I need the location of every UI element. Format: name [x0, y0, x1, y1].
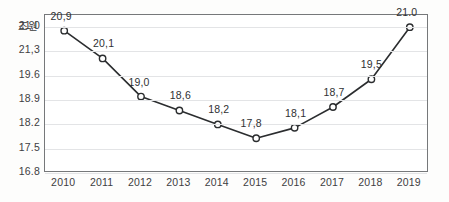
x-axis-tick-label: 2010: [43, 176, 83, 188]
data-point-label: 20,1: [93, 37, 114, 49]
data-point-marker: [138, 93, 144, 99]
gridline: [45, 51, 427, 52]
data-point-label: 17,8: [241, 117, 262, 129]
gridline: [45, 100, 427, 101]
data-point-label: 19,5: [361, 58, 382, 70]
x-axis-tick-label: 2011: [82, 176, 122, 188]
y-axis-tick-label: 17.5: [4, 142, 40, 153]
data-point-marker: [61, 27, 67, 33]
x-axis-tick-label: 2017: [312, 176, 352, 188]
data-point-label: 20,9: [51, 10, 72, 22]
gridline: [45, 149, 427, 150]
y-axis-tick-label: 18.2: [4, 117, 40, 128]
chart-screenshot: 조원 21,021,319.618.918.217.516.8 20,920,1…: [0, 0, 449, 202]
data-point-label: 18,6: [170, 89, 191, 101]
x-axis-tick-label: 2015: [235, 176, 275, 188]
data-point-marker: [330, 104, 336, 110]
data-point-marker: [176, 107, 182, 113]
x-axis-tick-label: 2018: [350, 176, 390, 188]
x-axis-tick-labels: 2010201120122013201420152016201720182019: [44, 176, 428, 194]
data-point-marker: [368, 76, 374, 82]
data-point-label: 21.0: [396, 6, 417, 18]
x-axis-tick-label: 2013: [158, 176, 198, 188]
y-axis-tick-label: 21,3: [4, 44, 40, 55]
y-axis-tick-label: 16.8: [4, 166, 40, 177]
data-point-marker: [253, 135, 259, 141]
y-axis-tick-label: 21,0: [4, 20, 40, 31]
y-axis-tick-label: 18.9: [4, 93, 40, 104]
data-point-label: 18,1: [285, 107, 306, 119]
data-point-label: 18,2: [208, 103, 229, 115]
data-point-marker: [291, 125, 297, 131]
data-point-marker: [99, 55, 105, 61]
y-axis-tick-labels: 21,021,319.618.918.217.516.8: [0, 14, 40, 172]
x-axis-tick-label: 2016: [274, 176, 314, 188]
y-axis-tick-label: 19.6: [4, 69, 40, 80]
data-point-label: 18,7: [323, 86, 344, 98]
x-axis-tick-label: 2014: [197, 176, 237, 188]
x-axis-tick-label: 2019: [389, 176, 429, 188]
gridline: [45, 27, 427, 28]
gridline: [45, 76, 427, 77]
gridline: [45, 124, 427, 125]
gridline: [45, 173, 427, 174]
series-polyline: [64, 27, 410, 138]
x-axis-tick-label: 2012: [120, 176, 160, 188]
data-point-label: 19,0: [128, 76, 149, 88]
